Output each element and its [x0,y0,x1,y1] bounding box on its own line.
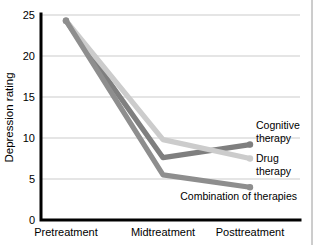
y-tick-label: 15 [23,91,35,103]
series-label-0: therapy [256,132,292,144]
y-tick-label: 0 [29,214,35,226]
x-category-label-1: Midtreatment [131,226,195,238]
y-tick-label: 20 [23,50,35,62]
series-end-marker-0 [247,141,253,147]
x-category-label-0: Pretreatment [34,226,98,238]
line-chart: 0510152025Depression ratingPretreatmentM… [0,0,320,245]
y-tick-label: 5 [29,173,35,185]
series-label-1: Drug [256,152,279,164]
series-label-0: Cognitive [256,119,300,131]
series-start-marker-2 [63,18,69,24]
y-tick-label: 10 [23,132,35,144]
y-tick-label: 25 [23,9,35,21]
x-category-label-2: Posttreatment [216,226,284,238]
series-line-2[interactable] [66,21,250,187]
chart-figure: 0510152025Depression ratingPretreatmentM… [0,0,320,245]
series-label-1: therapy [256,165,292,177]
series-label-2: Combination of therapies [180,190,297,202]
y-axis-title: Depression rating [3,72,15,162]
series-end-marker-1 [247,155,253,161]
